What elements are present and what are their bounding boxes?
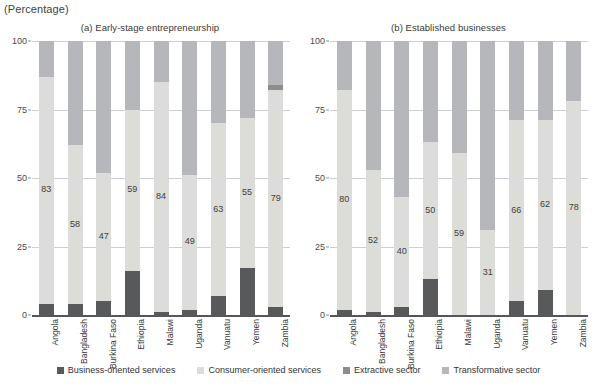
x-axis-label-vanuatu: Vanuatu [222, 319, 232, 350]
legend-item-extractive[interactable]: Extractive sector [343, 365, 421, 375]
segment-transformative-sector [509, 41, 524, 120]
bar-value-label: 63 [213, 204, 223, 214]
bar-a-bangladesh [68, 41, 83, 315]
stacked-bar-chart-figure: (Percentage) (a) Early-stage entrepreneu… [0, 0, 597, 387]
bar-a-zambia [268, 41, 283, 315]
bar-b-angola [337, 41, 352, 315]
y-axis-tick-mark-0 [28, 315, 31, 316]
plot-area-panel-b: 025507510080Angola52Bangladesh40Burkina … [330, 41, 588, 315]
y-axis-tick-label-50: 50 [315, 173, 325, 183]
x-axis-label-malawi: Malawi [165, 319, 175, 345]
bar-a-burkina-faso [96, 41, 111, 315]
bar-value-label: 78 [569, 202, 579, 212]
y-axis-tick-mark-75 [326, 109, 329, 110]
panel-b-title: (b) Established businesses [300, 22, 597, 33]
y-axis-tick-mark-0 [326, 315, 329, 316]
bar-value-label: 62 [540, 199, 550, 209]
segment-transformative-sector [366, 41, 381, 170]
y-axis-tick-label-25: 25 [17, 242, 27, 252]
legend-item-transformative[interactable]: Transformative sector [442, 365, 540, 375]
x-axis-label-angola: Angola [348, 319, 358, 345]
segment-transformative-sector [39, 41, 54, 77]
segment-extractive-sector [268, 85, 283, 90]
x-axis-label-zambia: Zambia [280, 319, 290, 347]
bar-b-yemen [538, 41, 553, 315]
segment-business-oriented-services [182, 310, 197, 315]
bar-a-yemen [240, 41, 255, 315]
y-axis-tick-mark-50 [28, 178, 31, 179]
chart-legend: Business-oriented servicesConsumer-orien… [0, 365, 597, 375]
y-axis-tick-label-25: 25 [315, 242, 325, 252]
y-axis-tick-label-75: 75 [315, 105, 325, 115]
legend-label: Business-oriented services [68, 365, 176, 375]
segment-business-oriented-services [39, 304, 54, 315]
bar-value-label: 40 [397, 246, 407, 256]
segment-transformative-sector [480, 41, 495, 230]
bar-b-burkina-faso [394, 41, 409, 315]
bar-b-vanuatu [509, 41, 524, 315]
bar-value-label: 58 [70, 219, 80, 229]
segment-business-oriented-services [125, 271, 140, 315]
legend-swatch-icon-consumer [197, 367, 204, 374]
segment-business-oriented-services [96, 301, 111, 315]
y-axis-tick-mark-50 [326, 178, 329, 179]
x-axis-label-vanuatu: Vanuatu [520, 319, 530, 350]
segment-transformative-sector [68, 41, 83, 145]
x-axis-label-yemen: Yemen [549, 319, 559, 345]
segment-transformative-sector [337, 41, 352, 90]
x-axis-label-bangladesh: Bangladesh [377, 319, 387, 364]
panel-a-title: (a) Early-stage entrepreneurship [0, 22, 312, 33]
segment-business-oriented-services [423, 279, 438, 315]
segment-business-oriented-services [68, 304, 83, 315]
segment-transformative-sector [538, 41, 553, 120]
segment-transformative-sector [452, 41, 467, 153]
segment-transformative-sector [154, 41, 169, 82]
x-axis-label-uganda: Uganda [492, 319, 502, 349]
segment-transformative-sector [240, 41, 255, 118]
y-axis-tick-label-75: 75 [17, 105, 27, 115]
legend-label: Transformative sector [453, 365, 540, 375]
bar-value-label: 84 [156, 191, 166, 201]
x-axis-label-burkina-faso: Burkina Faso [108, 319, 118, 369]
bar-a-uganda [182, 41, 197, 315]
bar-b-malawi [452, 41, 467, 315]
legend-label: Consumer-oriented services [208, 365, 321, 375]
y-axis-tick-label-100: 100 [12, 36, 27, 46]
x-axis-label-ethiopia: Ethiopia [434, 319, 444, 350]
segment-business-oriented-services [154, 312, 169, 315]
bar-a-malawi [154, 41, 169, 315]
segment-transformative-sector [182, 41, 197, 175]
y-axis-tick-mark-75 [28, 109, 31, 110]
legend-swatch-icon-transformative [442, 367, 449, 374]
x-axis-label-angola: Angola [50, 319, 60, 345]
segment-business-oriented-services [509, 301, 524, 315]
x-axis-label-yemen: Yemen [251, 319, 261, 345]
segment-business-oriented-services [268, 307, 283, 315]
gridline-0 [32, 315, 290, 317]
segment-business-oriented-services [366, 312, 381, 315]
segment-business-oriented-services [394, 307, 409, 315]
bar-value-label: 55 [242, 187, 252, 197]
bar-a-vanuatu [211, 41, 226, 315]
segment-transformative-sector [423, 41, 438, 142]
segment-transformative-sector [394, 41, 409, 197]
x-axis-label-ethiopia: Ethiopia [136, 319, 146, 350]
y-axis-tick-label-0: 0 [22, 310, 27, 320]
bar-value-label: 50 [425, 205, 435, 215]
gridline-0 [330, 315, 588, 317]
bar-value-label: 31 [483, 267, 493, 277]
legend-swatch-icon-business [57, 367, 64, 374]
x-axis-label-uganda: Uganda [194, 319, 204, 349]
segment-business-oriented-services [211, 296, 226, 315]
bar-a-ethiopia [125, 41, 140, 315]
segment-business-oriented-services [337, 310, 352, 315]
x-axis-label-malawi: Malawi [463, 319, 473, 345]
legend-item-consumer[interactable]: Consumer-oriented services [197, 365, 321, 375]
legend-swatch-icon-extractive [343, 367, 350, 374]
segment-business-oriented-services [538, 290, 553, 315]
legend-label: Extractive sector [354, 365, 421, 375]
y-axis-tick-label-50: 50 [17, 173, 27, 183]
legend-item-business[interactable]: Business-oriented services [57, 365, 176, 375]
bar-a-angola [39, 41, 54, 315]
bar-value-label: 66 [511, 205, 521, 215]
